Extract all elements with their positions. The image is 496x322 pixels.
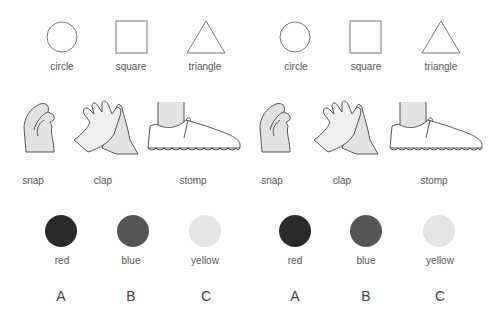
option-letter: C xyxy=(425,288,455,304)
option-letter: B xyxy=(351,288,381,304)
square-icon xyxy=(115,20,149,54)
shape-label: square xyxy=(336,61,396,72)
clap-hands-icon xyxy=(312,98,378,154)
color-label: red xyxy=(265,255,325,266)
option-letter: A xyxy=(280,288,310,304)
color-label: blue xyxy=(336,255,396,266)
action-label: clap xyxy=(73,175,133,186)
color-label: yellow xyxy=(410,255,470,266)
stomp-shoe-icon xyxy=(388,102,484,154)
shape-label: circle xyxy=(266,61,326,72)
clap-hands-icon xyxy=(72,98,138,154)
option-letter: C xyxy=(191,288,221,304)
shape-label: circle xyxy=(32,61,92,72)
shape-label: triangle xyxy=(175,61,235,72)
action-label: snap xyxy=(242,175,302,186)
circle-icon xyxy=(46,20,78,54)
snap-hand-icon xyxy=(256,100,292,154)
color-swatch-blue xyxy=(117,215,149,247)
color-swatch-yellow xyxy=(423,215,455,247)
option-letter: A xyxy=(46,288,76,304)
stomp-shoe-icon xyxy=(146,102,242,154)
action-label: stomp xyxy=(163,175,223,186)
color-label: blue xyxy=(101,255,161,266)
shape-label: triangle xyxy=(411,61,471,72)
triangle-icon xyxy=(185,20,227,56)
color-swatch-red xyxy=(279,215,311,247)
color-swatch-red xyxy=(45,215,77,247)
color-swatch-blue xyxy=(350,215,382,247)
color-label: yellow xyxy=(175,255,235,266)
triangle-icon xyxy=(420,20,462,56)
color-label: red xyxy=(32,255,92,266)
circle-icon xyxy=(279,20,311,54)
action-label: stomp xyxy=(404,175,464,186)
action-label: clap xyxy=(312,175,372,186)
shape-label: square xyxy=(101,61,161,72)
action-label: snap xyxy=(3,175,63,186)
snap-hand-icon xyxy=(20,100,56,154)
square-icon xyxy=(349,20,383,54)
option-letter: B xyxy=(116,288,146,304)
color-swatch-yellow xyxy=(189,215,221,247)
